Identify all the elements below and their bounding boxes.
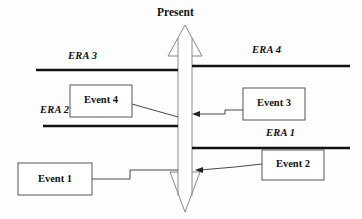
arrow-head-up-icon bbox=[168, 25, 202, 56]
connector-event1 bbox=[92, 170, 178, 179]
connector-event2 bbox=[200, 164, 262, 170]
connector-event3 bbox=[196, 110, 243, 114]
era-label-era4: ERA 4 bbox=[252, 44, 281, 55]
arrow-head-down-icon bbox=[170, 172, 200, 212]
arrow-head-left-event3-icon bbox=[192, 111, 200, 117]
era-label-era3: ERA 3 bbox=[68, 50, 97, 61]
present-label: Present bbox=[157, 6, 194, 18]
event-label-event3: Event 3 bbox=[249, 97, 299, 108]
connector-event4 bbox=[132, 104, 178, 117]
era-label-era2: ERA 2 bbox=[40, 104, 69, 115]
event-label-event4: Event 4 bbox=[76, 94, 126, 105]
vertical-time-arrow bbox=[168, 25, 202, 212]
event-label-event1: Event 1 bbox=[30, 173, 80, 184]
timeline-diagram: Present ERA 3 ERA 4 ERA 2 ERA 1 Event 4 … bbox=[0, 0, 362, 219]
era-label-era1: ERA 1 bbox=[266, 127, 295, 138]
event-label-event2: Event 2 bbox=[268, 158, 318, 169]
